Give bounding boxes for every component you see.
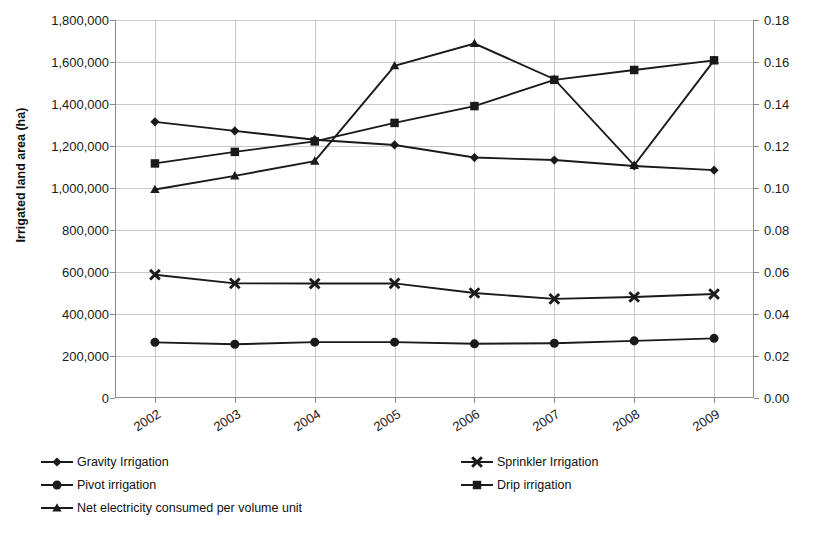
x-axis-tick-label: 2006 <box>451 407 483 434</box>
y-axis-left-tick-label: 400,000 <box>25 308 109 321</box>
tick-bottom <box>315 398 316 403</box>
tick-bottom <box>714 398 715 403</box>
x-axis-tick-label: 2002 <box>131 407 163 434</box>
y-axis-right-tick-labels: 0.000.020.040.060.080.100.120.140.160.18 <box>764 0 824 420</box>
legend-marker <box>460 478 494 492</box>
y-axis-left-tick-label: 200,000 <box>25 350 109 363</box>
x-axis-tick-label: 2005 <box>371 407 403 434</box>
tick-bottom <box>155 398 156 403</box>
y-axis-right-tick-label: 0.16 <box>764 56 820 69</box>
y-axis-left-tick-label: 1,800,000 <box>25 14 109 27</box>
figure-caption <box>100 529 800 542</box>
legend-item[interactable]: Net electricity consumed per volume unit <box>40 501 302 515</box>
tick-right <box>754 272 759 273</box>
legend-item[interactable]: Gravity Irrigation <box>40 455 169 469</box>
series-lines <box>115 20 754 398</box>
legend-marker <box>40 478 74 492</box>
y-axis-right-tick-label: 0.08 <box>764 224 820 237</box>
tick-right <box>754 230 759 231</box>
tick-bottom <box>235 398 236 403</box>
y-axis-left-tick-label: 1,600,000 <box>25 56 109 69</box>
chart-figure: Irrigated land area (ha) Net electricity… <box>0 0 836 542</box>
y-axis-right-tick-label: 0.00 <box>764 392 820 405</box>
tick-right <box>754 62 759 63</box>
y-axis-left-tick-label: 1,000,000 <box>25 182 109 195</box>
x-axis-tick-label: 2008 <box>611 407 643 434</box>
legend-marker-diamond-icon <box>40 455 74 469</box>
tick-bottom <box>474 398 475 403</box>
legend-marker <box>40 501 74 515</box>
y-axis-right-tick-label: 0.02 <box>764 350 820 363</box>
y-axis-left-tick-label: 1,200,000 <box>25 140 109 153</box>
legend-label: Pivot irrigation <box>77 478 156 492</box>
legend-marker-triangle-icon <box>40 501 74 515</box>
legend-marker <box>40 455 74 469</box>
legend-label: Drip irrigation <box>497 478 571 492</box>
legend-marker-x-icon <box>460 455 494 469</box>
series-line <box>155 44 714 190</box>
y-axis-right-tick-label: 0.18 <box>764 14 820 27</box>
legend-label: Net electricity consumed per volume unit <box>77 501 302 515</box>
legend-marker-square-icon <box>460 478 494 492</box>
tick-right <box>754 104 759 105</box>
legend-marker-circle-icon <box>40 478 74 492</box>
series-line <box>155 122 714 170</box>
plot-area <box>115 20 754 398</box>
y-axis-left-tick-label: 0 <box>25 392 109 405</box>
y-axis-left-tick-label: 800,000 <box>25 224 109 237</box>
y-axis-right-tick-label: 0.06 <box>764 266 820 279</box>
tick-right <box>754 146 759 147</box>
y-axis-left-tick-label: 600,000 <box>25 266 109 279</box>
y-axis-right-tick-label: 0.14 <box>764 98 820 111</box>
chart-legend: Gravity Irrigation Sprinkler Irrigation … <box>40 455 800 523</box>
legend-label: Gravity Irrigation <box>77 455 169 469</box>
tick-right <box>754 356 759 357</box>
tick-bottom <box>634 398 635 403</box>
x-axis-tick-label: 2004 <box>291 407 323 434</box>
y-axis-left-tick-label: 1,400,000 <box>25 98 109 111</box>
x-axis-tick-label: 2007 <box>531 407 563 434</box>
y-axis-right-tick-label: 0.04 <box>764 308 820 321</box>
y-axis-left-tick-labels: 0200,000400,000600,000800,0001,000,0001,… <box>25 0 109 420</box>
x-axis-tick-label: 2009 <box>690 407 722 434</box>
legend-item[interactable]: Drip irrigation <box>460 478 571 492</box>
tick-left <box>110 398 115 399</box>
legend-marker <box>460 455 494 469</box>
tick-right <box>754 314 759 315</box>
tick-bottom <box>395 398 396 403</box>
y-axis-right-tick-label: 0.10 <box>764 182 820 195</box>
tick-bottom <box>554 398 555 403</box>
legend-item[interactable]: Sprinkler Irrigation <box>460 455 598 469</box>
tick-right <box>754 188 759 189</box>
y-axis-right-tick-label: 0.12 <box>764 140 820 153</box>
legend-label: Sprinkler Irrigation <box>497 455 598 469</box>
tick-right <box>754 398 759 399</box>
legend-item[interactable]: Pivot irrigation <box>40 478 156 492</box>
x-axis-tick-label: 2003 <box>211 407 243 434</box>
tick-right <box>754 20 759 21</box>
